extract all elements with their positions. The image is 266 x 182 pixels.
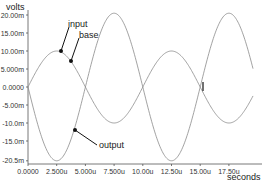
input-label: input: [68, 19, 88, 29]
x-tick-label: 15.00u: [189, 168, 211, 175]
y-axis-ticks: 20.00m15.00m10.00m5.000m0.0000-5.00m-10.…: [1, 12, 28, 165]
x-tick-label: 2.500u: [46, 168, 68, 175]
y-tick-label: 5.000m: [1, 66, 25, 73]
plot-area: 20.00m15.00m10.00m5.000m0.0000-5.00m-10.…: [0, 0, 266, 182]
x-tick-label: 0.0000: [17, 168, 39, 175]
input-leader-line: [61, 27, 69, 51]
x-tick-label: 10.00u: [132, 168, 154, 175]
x-tick-label: 12.50u: [161, 168, 183, 175]
output-leader-line: [75, 130, 97, 145]
x-tick-label: 7.500u: [103, 168, 125, 175]
x-tick-label: 5.000u: [75, 168, 97, 175]
y-tick-label: 10.00m: [1, 48, 25, 55]
output-curve: [28, 13, 253, 161]
y-axis-title: volts: [6, 2, 25, 12]
output-marker: [73, 128, 77, 132]
output-label: output: [99, 140, 125, 150]
y-tick-label: 20.00m: [1, 12, 25, 19]
base-label: base: [79, 30, 99, 40]
y-tick-label: -5.00m: [2, 102, 24, 109]
base-leader-line: [71, 38, 79, 61]
y-tick-label: -10.0m: [2, 120, 24, 127]
x-axis-ticks: 0.00002.500u5.000u7.500u10.00u12.50u15.0…: [17, 164, 239, 175]
y-tick-label: 0.0000: [3, 84, 25, 91]
input-curve: [28, 51, 253, 123]
y-tick-label: 15.00m: [1, 30, 25, 37]
base-marker: [69, 59, 73, 63]
y-tick-label: -15.0m: [2, 138, 24, 145]
input-marker: [59, 49, 63, 53]
x-axis-title: seconds: [227, 172, 261, 182]
y-tick-label: -20.5m: [2, 157, 24, 164]
